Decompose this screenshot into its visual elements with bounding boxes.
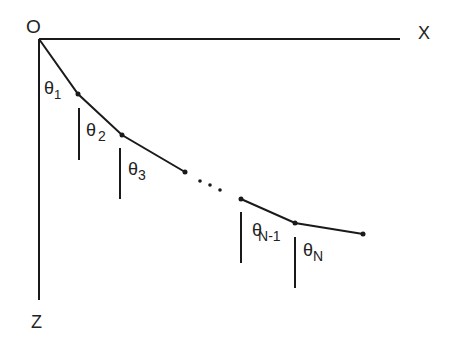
angle-label-theta-1: θ1 <box>44 78 61 102</box>
angle-label-theta-3: θ3 <box>128 159 146 183</box>
joint-node <box>183 170 188 175</box>
joint-node <box>239 197 244 202</box>
x-axis-label: X <box>418 23 430 43</box>
joint-node <box>76 92 81 97</box>
joint-node <box>293 221 298 226</box>
chain-segments-first <box>39 39 185 172</box>
angle-label-theta-n-minus-1: θN-1 <box>252 220 281 244</box>
ellipsis-dots <box>198 179 222 192</box>
chain-diagram: O X Z θ1 θ2 θ3 θN-1 θN <box>0 0 457 342</box>
angle-label-theta-2: θ2 <box>86 120 106 144</box>
origin-label: O <box>26 16 41 37</box>
joint-node <box>120 133 125 138</box>
angle-label-theta-n: θN <box>303 240 323 264</box>
joint-node <box>361 232 366 237</box>
z-axis-label: Z <box>31 312 42 332</box>
